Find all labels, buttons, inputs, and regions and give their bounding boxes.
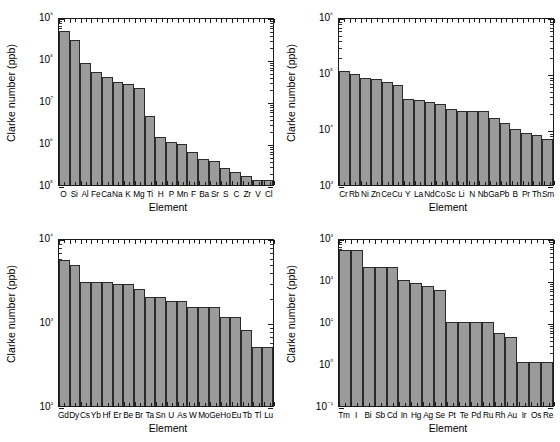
x-tick-label: Re [542,409,554,422]
y-axis-ticks: 10²10³10⁴ [20,239,56,407]
y-axis-title: Clarke number (ppb) [2,0,20,186]
x-tick-label: B [510,188,521,201]
x-tick-mark-minor [75,240,76,243]
bar [532,135,543,185]
chart-panel-0: Clarke number (ppb)10⁵10⁶10⁷10⁸10⁹OSiAlF… [0,0,280,221]
x-tick-mark-minor [226,182,227,185]
x-axis-ticks: GdDyCsYbHfErBeBrTaSnUAsWMoGeHoEuTbTlLu [58,409,274,422]
x-tick-label: Bi [362,409,374,422]
x-tick-mark [375,402,376,406]
x-tick-mark-minor [118,403,119,406]
x-tick-mark-minor [205,240,206,243]
x-tick-mark [70,19,71,23]
x-tick-mark [156,402,157,406]
x-tick-mark [210,402,211,406]
x-tick-mark [350,181,351,185]
x-axis-ticks: TmIBiSbCdInHgAgSePtTePdRuRhAuIrOsRe [338,409,554,422]
bar [80,63,91,185]
y-tick-label: 10⁰ [319,360,333,370]
x-tick-label: Lu [263,409,274,422]
x-tick-mark [435,402,436,406]
x-axis-title: Element [58,422,278,434]
y-tick-label: 10⁶ [39,139,53,149]
x-tick-label: Fe [90,188,101,201]
x-tick-label: Ca [101,188,112,201]
x-tick-label: P [166,188,177,201]
x-tick-mark [351,240,352,244]
bar [351,250,363,406]
x-tick-mark [156,240,157,244]
x-tick-mark-minor [97,240,98,243]
x-tick-mark-minor [129,240,130,243]
x-tick-mark-minor [496,19,497,22]
x-tick-mark-minor [64,240,65,243]
x-tick-mark-minor [64,182,65,185]
x-tick-mark [199,181,200,185]
x-tick-label: Tl [252,409,263,422]
x-tick-mark [135,19,136,23]
x-tick-label: Sc [445,188,456,201]
x-tick-label: H [155,188,166,201]
x-tick-mark-minor [477,240,478,243]
x-tick-mark [102,19,103,23]
bar [500,123,511,185]
x-tick-mark-minor [477,403,478,406]
x-tick-mark [91,240,92,244]
x-tick-mark [210,19,211,23]
x-tick-mark-minor [550,182,551,185]
x-tick-mark [70,240,71,244]
x-tick-mark [339,402,340,406]
x-tick-mark-minor [259,182,260,185]
x-tick-mark [91,402,92,406]
x-tick-mark-minor [270,403,271,406]
x-tick-mark [361,19,362,23]
y-axis-title-text: Clarke number (ppb) [5,265,17,363]
bar [123,84,134,185]
x-tick-mark-minor [465,403,466,406]
y-tick-label: 10⁹ [39,13,53,23]
x-tick-mark [393,19,394,23]
x-tick-mark [404,181,405,185]
bar-series [339,240,553,406]
x-tick-mark-minor [270,182,271,185]
bar [113,82,124,185]
x-tick-mark [232,19,233,23]
x-tick-mark-minor [194,240,195,243]
bar [59,260,70,406]
x-tick-mark [471,402,472,406]
x-tick-mark-minor [345,240,346,243]
x-tick-label: Al [80,188,91,201]
x-tick-mark [393,181,394,185]
x-tick-mark-minor [489,403,490,406]
figure-grid: Clarke number (ppb)10⁵10⁶10⁷10⁸10⁹OSiAlF… [0,0,560,442]
bar [80,282,91,406]
x-tick-mark [554,181,555,185]
x-tick-label: Ir [518,409,530,422]
x-tick-label: Yb [90,409,101,422]
x-tick-mark-minor [97,403,98,406]
bar [422,286,434,406]
x-tick-mark [264,181,265,185]
x-tick-mark-minor [172,19,173,22]
x-tick-label: Li [456,188,467,201]
x-tick-mark-minor [409,19,410,22]
x-tick-label: Zr [242,188,253,201]
x-tick-mark [519,240,520,244]
bar [70,265,81,406]
x-tick-label: La [413,188,424,201]
x-tick-mark [135,402,136,406]
x-tick-mark-minor [506,19,507,22]
x-tick-mark-minor [64,403,65,406]
x-tick-mark-minor [388,19,389,22]
y-axis-title-text: Clarke number (ppb) [285,44,297,142]
x-tick-mark-minor [183,403,184,406]
x-tick-mark-minor [429,240,430,243]
x-tick-mark [415,181,416,185]
y-tick-label: 10⁴ [39,234,53,244]
x-tick-mark-minor [97,182,98,185]
x-tick-mark [274,19,275,23]
x-tick-mark-minor [539,182,540,185]
bar [145,297,156,406]
bar-series [59,19,273,185]
x-tick-label: Ce [381,188,392,201]
